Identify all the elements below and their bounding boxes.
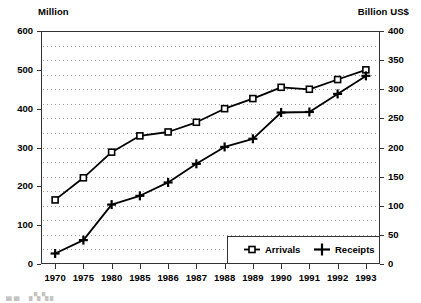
left-axis-tick-200: 200 [7, 180, 33, 191]
right-axis-tick-350: 350 [388, 54, 414, 65]
left-axis-tick-300: 300 [7, 142, 33, 153]
left-axis-tick-100: 100 [7, 219, 33, 230]
right-axis-tick-250: 250 [388, 112, 414, 123]
right-axis-tick-0: 0 [388, 258, 414, 269]
right-axis-tick-400: 400 [388, 25, 414, 36]
legend-item-arrivals: Arrivals [265, 244, 300, 255]
right-axis-tick-200: 200 [388, 142, 414, 153]
left-axis-tick-400: 400 [7, 103, 33, 114]
right-axis-tick-50: 50 [388, 229, 414, 240]
cropped-footer-remnant: ▄▄ ▗▚▚▖ [6, 292, 126, 301]
legend-item-receipts: Receipts [335, 244, 375, 255]
left-axis-tick-0: 0 [7, 258, 33, 269]
chart-container: Million Billion US$ 0100200300400500600 … [0, 0, 421, 303]
left-axis-tick-600: 600 [7, 25, 33, 36]
right-axis-tick-150: 150 [388, 171, 414, 182]
right-axis-tick-100: 100 [388, 200, 414, 211]
right-axis-tick-300: 300 [388, 83, 414, 94]
chart-plot-area [0, 0, 421, 303]
left-axis-tick-500: 500 [7, 64, 33, 75]
x-axis-tick-1993: 1993 [349, 272, 383, 283]
